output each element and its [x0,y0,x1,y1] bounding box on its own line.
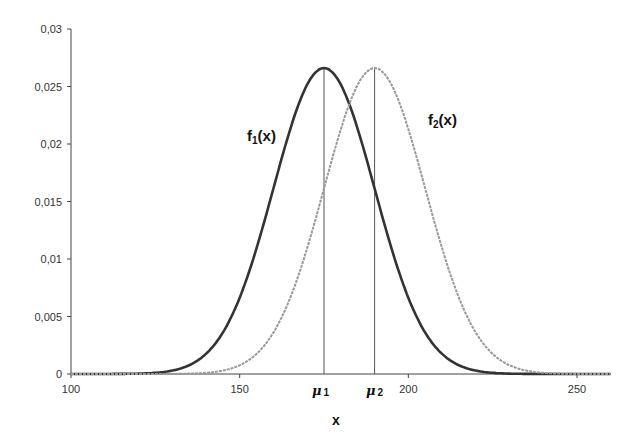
y-tick-label: 0,025 [34,81,62,93]
curve-f1x [71,68,611,374]
curve-label-f2: f2(x) [428,111,457,130]
y-tick-label: 0,01 [41,253,62,265]
curve-f2x [71,68,611,374]
curves [71,68,611,374]
y-tick-label: 0,03 [41,23,62,35]
y-tick-label: 0,02 [41,138,62,150]
mean-lines [324,68,375,374]
x-axis-title: x [332,412,340,428]
x-tick-label: 250 [568,383,586,395]
mu2-label: μ2 [366,383,384,398]
x-tick-label: 200 [399,383,417,395]
y-axis: 00,0050,010,0150,020,0250,03 [34,23,71,380]
x-tick-label: 100 [62,383,80,395]
curve-label-f1: f1(x) [247,127,276,146]
x-tick-label: 150 [230,383,248,395]
normal-distributions-chart: 00,0050,010,0150,020,0250,03 10015020025… [0,0,638,441]
y-tick-label: 0,015 [34,196,62,208]
mu1-label: μ1 [312,383,330,398]
x-axis: 100150200250 [62,374,610,395]
y-tick-label: 0,005 [34,311,62,323]
y-tick-label: 0 [56,368,62,380]
